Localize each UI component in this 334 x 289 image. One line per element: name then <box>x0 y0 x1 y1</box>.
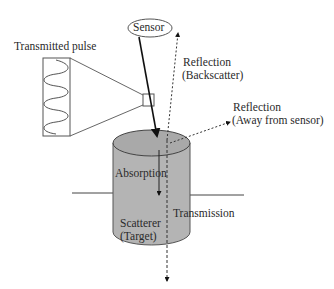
sensor-label: Sensor <box>133 21 164 34</box>
transmitted-pulse-label: Transmitted pulse <box>14 40 96 53</box>
reflection-away-label-line1: Reflection <box>233 101 281 114</box>
reflection-away-arrow <box>170 122 230 143</box>
backscatter-label-line1: Reflection <box>183 56 231 69</box>
transmission-label: Transmission <box>173 207 235 220</box>
scatterer-label-line1: Scatterer <box>120 217 161 230</box>
backscatter-arrow <box>167 33 178 140</box>
pulse-footprint-box <box>143 94 154 106</box>
pulse-projection-lines <box>70 58 143 136</box>
scatterer-label-line2: (Target) <box>120 230 157 243</box>
transmitted-pulse-box <box>43 58 70 136</box>
incident-arrow <box>139 37 157 136</box>
absorption-label: Absorption <box>115 167 167 180</box>
reflection-away-label-line2: (Away from sensor) <box>232 114 324 127</box>
backscatter-label-line2: (Backscatter) <box>182 69 243 82</box>
